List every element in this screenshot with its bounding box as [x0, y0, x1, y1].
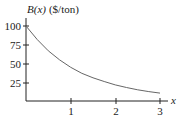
x-axis-label: x [170, 94, 176, 106]
y-tick-label-25: 25 [10, 77, 22, 89]
y-axis-label: B(x)($/ton) [27, 3, 79, 16]
y-tick-label-50: 50 [10, 58, 22, 70]
x-tick-label-1: 1 [68, 105, 74, 117]
y-tick-label-75: 75 [10, 39, 22, 51]
chart: 100 75 50 25 1 2 3 x B(x)($/ton) [0, 0, 181, 122]
curve-B [26, 26, 160, 93]
y-tick-label-100: 100 [5, 20, 22, 32]
x-tick-label-2: 2 [113, 105, 119, 117]
x-tick-label-3: 3 [157, 105, 163, 117]
